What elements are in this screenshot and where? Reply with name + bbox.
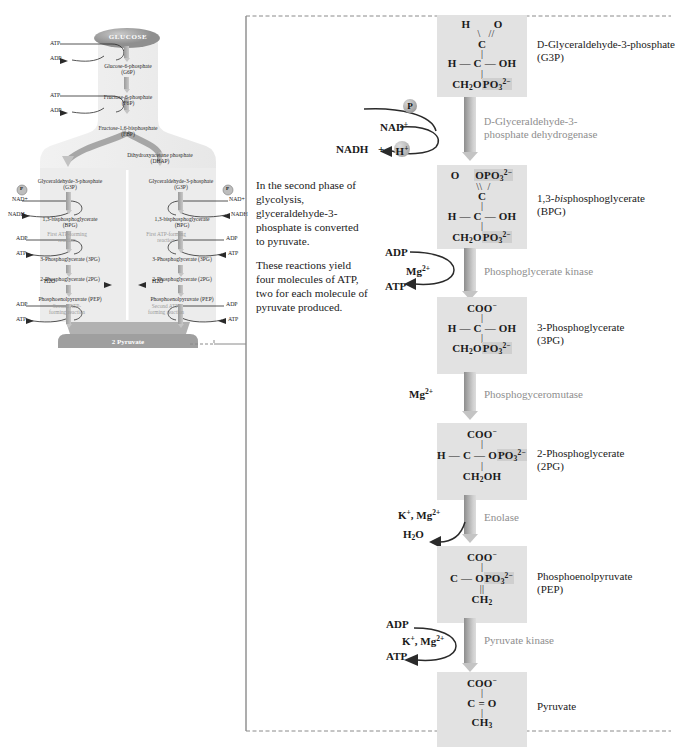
bpg-bond-3: |: [437, 222, 527, 231]
pep-line-3: CH2: [437, 594, 527, 607]
gapdh-line2: phosphate dehydrogenase: [484, 128, 597, 140]
cofactor-k-mg-pk: K+, Mg2+: [402, 634, 444, 647]
cofactor-adp-pgk: ADP: [385, 246, 408, 258]
pg2-bond-1: |: [437, 440, 527, 449]
compound-name-bpg: 1,3-bisphosphoglycerate (BPG): [537, 192, 645, 218]
cofactor-nad-plus: NAD+: [380, 120, 408, 133]
g3p-line-4: CH2OPO32−: [437, 78, 527, 92]
compound-name-pep: Phosphoenolpyruvate (PEP): [537, 570, 632, 596]
structure-g3p: H O \ // C | H — C — OH | CH2OPO32−: [437, 15, 527, 97]
structure-2pg: COO− | H — C — OPO32− | CH2OH: [437, 423, 527, 500]
pep-name: Phosphoenolpyruvate: [537, 570, 632, 582]
pg3-name: 3-Phosphoglycerate: [537, 321, 624, 333]
phosphate-circle-gapdh: P: [403, 99, 417, 113]
pep-abbrev: (PEP): [537, 583, 563, 595]
caption-paragraph-2: These reactions yield four molecules of …: [256, 258, 368, 314]
compound-name-g3p: DD-Glyceraldehyde-3-phosphate-Glyceralde…: [537, 38, 675, 64]
bpg-line-4: CH2OPO32−: [437, 231, 527, 245]
bpg-abbrev: (BPG): [537, 205, 566, 217]
cofactor-mg-pgm: Mg2+: [409, 387, 433, 400]
cofactor-mg-pgk: Mg2+: [406, 264, 430, 277]
g3p-bond-3: |: [437, 70, 527, 79]
reaction-arrow-pgm: [462, 372, 478, 420]
pyr-name: Pyruvate: [537, 700, 576, 712]
structure-pep: COO− | C — OPO32− || CH2: [437, 546, 527, 623]
enzyme-pgm: Phosphogyceromutase: [484, 388, 583, 401]
cofactor-water: H2O: [403, 528, 424, 542]
bpg-name: 1,3-bisphosphoglycerate: [537, 192, 645, 204]
compound-name-pyruvate: Pyruvate: [537, 700, 576, 713]
cofactor-plus-sign: +: [378, 143, 384, 155]
pep-bond-1: |: [437, 563, 527, 572]
pyr-line-3: CH3: [437, 717, 527, 730]
caption-block: In the second phase of glycolysis, glyce…: [256, 178, 368, 323]
proton-circle: H+: [394, 141, 410, 157]
nadh-label: NADH: [336, 143, 368, 155]
gapdh-line1: -Glyceraldehyde-3-: [491, 115, 577, 127]
cofactor-atp-pk: ATP: [386, 650, 407, 662]
caption-paragraph-1: In the second phase of glycolysis, glyce…: [256, 178, 368, 249]
compound-name-3pg: 3-Phosphoglycerate (3PG): [537, 321, 624, 347]
pg3-abbrev: (3PG): [537, 334, 564, 346]
compound-name-2pg: 2-Phosphoglycerate (2PG): [537, 447, 624, 473]
cofactor-nadh: NADH: [336, 143, 368, 155]
pg2-line-3: CH2OH: [437, 471, 527, 484]
enzyme-enolase: Enolase: [484, 511, 519, 524]
g3p-abbrev: (G3P): [537, 51, 564, 63]
enzyme-gapdh: D-Glyceraldehyde-3- phosphate dehydrogen…: [484, 115, 597, 141]
pg3-line-3: CH2OPO32−: [437, 342, 527, 356]
structure-3pg: COO− | H — C — OH | CH2OPO32−: [437, 297, 527, 374]
cofactor-adp-pk: ADP: [386, 618, 409, 630]
pg2-name: 2-Phosphoglycerate: [537, 447, 624, 459]
cofactor-atp-pgk: ATP: [385, 280, 406, 292]
g3p-name-text: -Glyceraldehyde-3-phosphate: [544, 38, 675, 50]
enzyme-pk: Pyruvate kinase: [484, 634, 554, 647]
enzyme-pgk: Phosphoglycerate kinase: [484, 265, 593, 278]
structure-pyruvate: COO− | C = O | CH3: [437, 672, 527, 747]
pg2-abbrev: (2PG): [537, 460, 564, 472]
pg2-bond-2: |: [437, 462, 527, 471]
structure-bpg: O OPO32− \\ / C | H — C — OH | CH2OPO32−: [437, 165, 527, 249]
